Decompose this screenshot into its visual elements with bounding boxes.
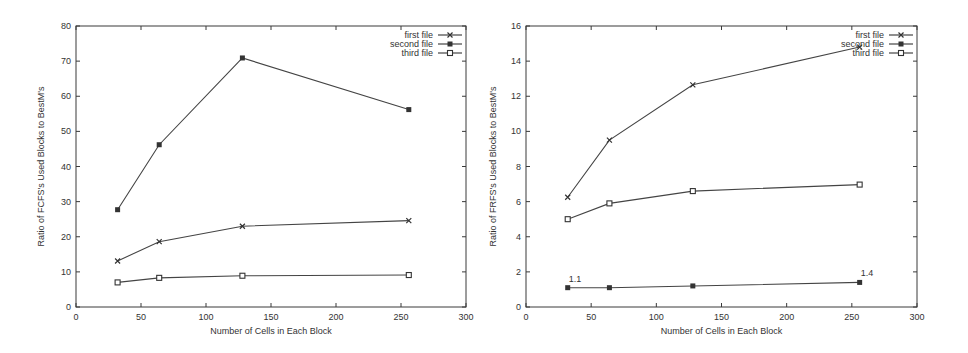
legend: first filesecond filethird file bbox=[390, 30, 462, 58]
y-tick-label: 14 bbox=[511, 56, 521, 66]
x-tick-label: 250 bbox=[844, 312, 859, 322]
plot-area: 05010015020025030001020304050607080Numbe… bbox=[36, 21, 474, 336]
x-tick-label: 200 bbox=[779, 312, 794, 322]
series-first-file bbox=[115, 218, 411, 263]
x-tick-label: 300 bbox=[458, 312, 473, 322]
legend-filled-square-marker bbox=[448, 42, 453, 47]
y-tick-label: 8 bbox=[516, 162, 521, 172]
data-point-filled-square-marker bbox=[565, 285, 570, 290]
data-point-hollow-square-marker bbox=[115, 280, 120, 285]
x-axis-label: Number of Cells in Each Block bbox=[210, 326, 332, 336]
y-tick-label: 20 bbox=[61, 232, 71, 242]
data-point-filled-square-marker bbox=[857, 280, 862, 285]
series-third-file bbox=[115, 273, 411, 285]
x-tick-label: 50 bbox=[136, 312, 146, 322]
y-tick-label: 4 bbox=[516, 232, 521, 242]
y-tick-label: 30 bbox=[61, 197, 71, 207]
data-point-x-marker bbox=[607, 138, 612, 143]
y-tick-label: 10 bbox=[61, 267, 71, 277]
x-tick-label: 150 bbox=[714, 312, 729, 322]
data-annotation: 1.1 bbox=[569, 274, 582, 284]
x-tick-label: 0 bbox=[73, 312, 78, 322]
series-second-file bbox=[115, 55, 411, 212]
data-point-x-marker bbox=[115, 258, 120, 263]
fcfs-chart-svg: 05010015020025030001020304050607080Numbe… bbox=[0, 0, 484, 353]
plot-area: 0501001502002503000246810121416Number of… bbox=[488, 21, 925, 336]
x-tick-label: 0 bbox=[523, 312, 528, 322]
x-tick-label: 100 bbox=[198, 312, 213, 322]
x-tick-label: 50 bbox=[586, 312, 596, 322]
y-tick-label: 70 bbox=[61, 56, 71, 66]
y-tick-label: 10 bbox=[511, 126, 521, 136]
x-axis-label: Number of Cells in Each Block bbox=[661, 326, 783, 336]
data-point-hollow-square-marker bbox=[857, 182, 862, 187]
y-tick-label: 6 bbox=[516, 197, 521, 207]
frfs-chart-svg: 0501001502002503000246810121416Number of… bbox=[484, 0, 968, 353]
data-point-filled-square-marker bbox=[406, 107, 411, 112]
series-line bbox=[118, 58, 409, 210]
fcfs-ratio-chart: 05010015020025030001020304050607080Numbe… bbox=[0, 0, 484, 353]
y-tick-label: 60 bbox=[61, 91, 71, 101]
y-tick-label: 16 bbox=[511, 21, 521, 31]
data-point-filled-square-marker bbox=[157, 142, 162, 147]
data-point-filled-square-marker bbox=[240, 55, 245, 60]
y-tick-label: 2 bbox=[516, 267, 521, 277]
legend-label: third file bbox=[401, 48, 433, 58]
y-tick-label: 12 bbox=[511, 91, 521, 101]
data-point-hollow-square-marker bbox=[240, 273, 245, 278]
y-axis-label: Ratio of FRFS's Used Blocks to BestM's bbox=[488, 86, 498, 246]
y-tick-label: 0 bbox=[66, 302, 71, 312]
x-tick-label: 100 bbox=[649, 312, 664, 322]
data-point-hollow-square-marker bbox=[607, 201, 612, 206]
data-point-hollow-square-marker bbox=[157, 275, 162, 280]
data-point-hollow-square-marker bbox=[565, 217, 570, 222]
data-point-hollow-square-marker bbox=[406, 273, 411, 278]
legend-label: third file bbox=[852, 48, 884, 58]
data-point-x-marker bbox=[565, 195, 570, 200]
y-axis-label: Ratio of FCFS's Used Blocks to BestM's bbox=[36, 86, 46, 246]
x-tick-label: 300 bbox=[909, 312, 924, 322]
data-annotation: 1.4 bbox=[861, 268, 874, 278]
x-tick-label: 250 bbox=[393, 312, 408, 322]
plot-frame bbox=[526, 26, 917, 307]
y-tick-label: 40 bbox=[61, 162, 71, 172]
legend: first filesecond filethird file bbox=[841, 30, 913, 58]
series-first-file bbox=[565, 45, 862, 200]
x-tick-label: 150 bbox=[263, 312, 278, 322]
y-tick-label: 50 bbox=[61, 126, 71, 136]
legend-hollow-square-marker bbox=[448, 51, 453, 56]
legend-filled-square-marker bbox=[899, 42, 904, 47]
data-point-filled-square-marker bbox=[607, 285, 612, 290]
plot-frame bbox=[76, 26, 466, 307]
y-tick-label: 0 bbox=[516, 302, 521, 312]
series-line bbox=[568, 47, 860, 197]
legend-hollow-square-marker bbox=[899, 51, 904, 56]
y-tick-label: 80 bbox=[61, 21, 71, 31]
data-point-hollow-square-marker bbox=[690, 189, 695, 194]
series-third-file bbox=[565, 182, 862, 222]
data-point-filled-square-marker bbox=[115, 207, 120, 212]
series-second-file bbox=[565, 280, 862, 290]
x-tick-label: 200 bbox=[328, 312, 343, 322]
data-point-filled-square-marker bbox=[690, 283, 695, 288]
series-line bbox=[118, 221, 409, 261]
frfs-ratio-chart: 0501001502002503000246810121416Number of… bbox=[484, 0, 968, 353]
